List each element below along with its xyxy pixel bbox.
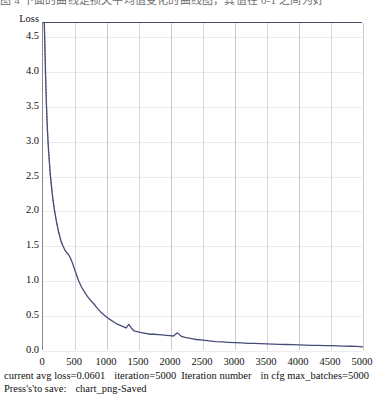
- y-axis-tick-label: 2.0: [2, 205, 42, 215]
- y-axis-tick-label: 1.0: [2, 275, 42, 285]
- x-axis-tick-label: 4500: [320, 356, 341, 368]
- x-axis-tick-label: 3000: [224, 356, 245, 368]
- x-axis-tick-label: 3500: [256, 356, 277, 368]
- save-hint-label: Press's'to save:: [4, 383, 66, 394]
- loss-series-head-dotted: [44, 23, 63, 247]
- x-axis-tick-label: 2500: [192, 356, 213, 368]
- status-line-save: Press's'to save:chart_png-Saved: [0, 383, 377, 396]
- y-axis-tick-label: 1.5: [2, 240, 42, 250]
- x-axis-tick-label: 4000: [288, 356, 309, 368]
- x-axis-labels: 0500100015002000250030003500400045005000: [0, 356, 377, 370]
- x-gridline: [363, 23, 364, 350]
- top-caption-text: 图 4 下面的曲线是损失平均值变化的曲线图，其值在 0-1 之间为好: [0, 0, 377, 6]
- y-axis-tick-label: 4.5: [2, 31, 42, 41]
- top-caption: 图 4 下面的曲线是损失平均值变化的曲线图，其值在 0-1 之间为好: [0, 0, 377, 12]
- avg-loss-value: 0.0601: [76, 370, 105, 381]
- y-axis-tick-label: 2.5: [2, 171, 42, 181]
- status-line-current: current avg loss=0.0601iteration=5000Ite…: [0, 370, 377, 383]
- y-axis-tick-label: 4.0: [2, 66, 42, 76]
- x-axis-tick-label: 5000: [352, 356, 373, 368]
- y-axis-tick-label: 3.5: [2, 101, 42, 111]
- iteration-number-label: Iteration number: [181, 370, 251, 381]
- y-axis-tick-label: 3.0: [2, 136, 42, 146]
- y-axis-tick-label: 0.0: [2, 345, 42, 355]
- status-block: current avg loss=0.0601iteration=5000Ite…: [0, 370, 377, 395]
- y-axis-labels: 0.00.51.01.52.02.53.03.54.04.5: [0, 22, 42, 362]
- x-axis-tick-label: 2000: [160, 356, 181, 368]
- loss-curve: [43, 23, 363, 351]
- loss-series-line: [44, 23, 363, 347]
- y-gridline: [43, 351, 362, 352]
- x-axis-tick-label: 0: [39, 356, 44, 368]
- avg-loss-label: current avg loss=: [4, 370, 76, 381]
- save-status-label: chart_png-Saved: [75, 383, 146, 394]
- x-axis-tick-label: 1500: [128, 356, 149, 368]
- iteration-value: 5000: [155, 370, 176, 381]
- x-axis-tick-label: 1000: [96, 356, 117, 368]
- loss-chart-figure: Loss 0.00.51.01.52.02.53.03.54.04.5 0500…: [0, 14, 377, 404]
- x-axis-tick-label: 500: [66, 356, 82, 368]
- max-batches-label: in cfg max_batches=: [260, 370, 348, 381]
- max-batches-value: 5000: [348, 370, 369, 381]
- iteration-label: iteration=: [114, 370, 155, 381]
- y-axis-tick-label: 0.5: [2, 310, 42, 320]
- plot-area: [42, 22, 362, 350]
